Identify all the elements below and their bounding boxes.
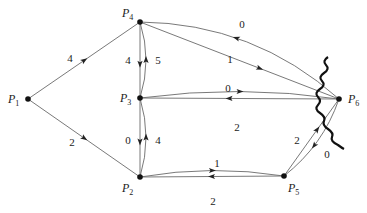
node-label-subscript: 6 — [355, 99, 359, 108]
arrowhead-p6-p4 — [232, 34, 240, 41]
edge-weight-p2-p5: 2 — [210, 195, 216, 207]
node-p3 — [137, 95, 143, 101]
node-p1 — [25, 96, 31, 102]
edge-weight-p1-p2: 2 — [69, 136, 75, 148]
edge-weight-p3-p6: 2 — [234, 121, 240, 133]
node-label-subscript: 3 — [127, 98, 131, 107]
arrowhead-p1-p4 — [80, 56, 89, 64]
edge-weight-p3-p2: 0 — [125, 134, 131, 146]
arrowhead-p4-p6 — [256, 65, 264, 72]
edge-weight-p6-p3: 0 — [225, 82, 231, 94]
edge-weight-p6-p4: 0 — [239, 18, 245, 30]
wavy-cut-line — [316, 57, 344, 149]
node-label-subscript: 2 — [129, 188, 133, 197]
edge-weight-p1-p4: 4 — [67, 52, 73, 64]
edge-weight-p4-p6: 1 — [227, 53, 233, 65]
edge-weight-p5-p6: 2 — [294, 134, 300, 146]
node-label-p6: P6 — [347, 92, 359, 108]
edge-p4-p6 — [140, 22, 339, 99]
node-label-p2: P2 — [121, 181, 133, 197]
edge-weight-p3-p4: 5 — [155, 54, 161, 66]
node-p4 — [137, 19, 143, 25]
node-p5 — [281, 173, 287, 179]
arrowhead-p1-p2 — [80, 134, 89, 142]
node-label-p1: P1 — [7, 92, 19, 108]
edge-p6-p3 — [140, 98, 339, 99]
arrowhead-p5-p6 — [313, 125, 321, 134]
node-label-subscript: 4 — [129, 13, 133, 22]
edge-weight-p5-p2: 1 — [214, 157, 220, 169]
node-label-p4: P4 — [121, 6, 133, 22]
network-diagram: 42450401021220 P1P2P3P4P5P6 — [0, 0, 367, 213]
node-label-p5: P5 — [287, 181, 299, 197]
edge-weight-p2-p3: 4 — [155, 134, 161, 146]
node-label-p3: P3 — [119, 91, 131, 107]
node-label-subscript: 1 — [15, 99, 19, 108]
node-label-subscript: 5 — [295, 188, 299, 197]
edge-weight-p6-p5: 0 — [324, 148, 330, 160]
node-p2 — [137, 174, 143, 180]
node-p6 — [336, 96, 342, 102]
edge-weight-p4-p3: 4 — [125, 54, 131, 66]
